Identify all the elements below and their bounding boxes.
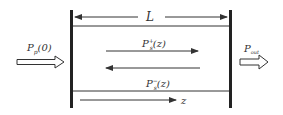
laser-cavity-diagram: L P+s(z) P−s(z) z Pp(0) Pout [0,0,283,115]
length-label: L [145,10,154,24]
input-pump-label: Pp(0) [26,42,52,56]
output-arrow [240,55,268,69]
right-mirror [229,10,232,108]
left-mirror [70,10,73,108]
input-pump-arrow [17,56,64,68]
z-axis-label: z [180,95,187,106]
output-label: Pout [243,43,260,55]
backward-signal-label: P−s(z) [145,77,170,91]
forward-signal-label: P+s(z) [141,37,166,51]
